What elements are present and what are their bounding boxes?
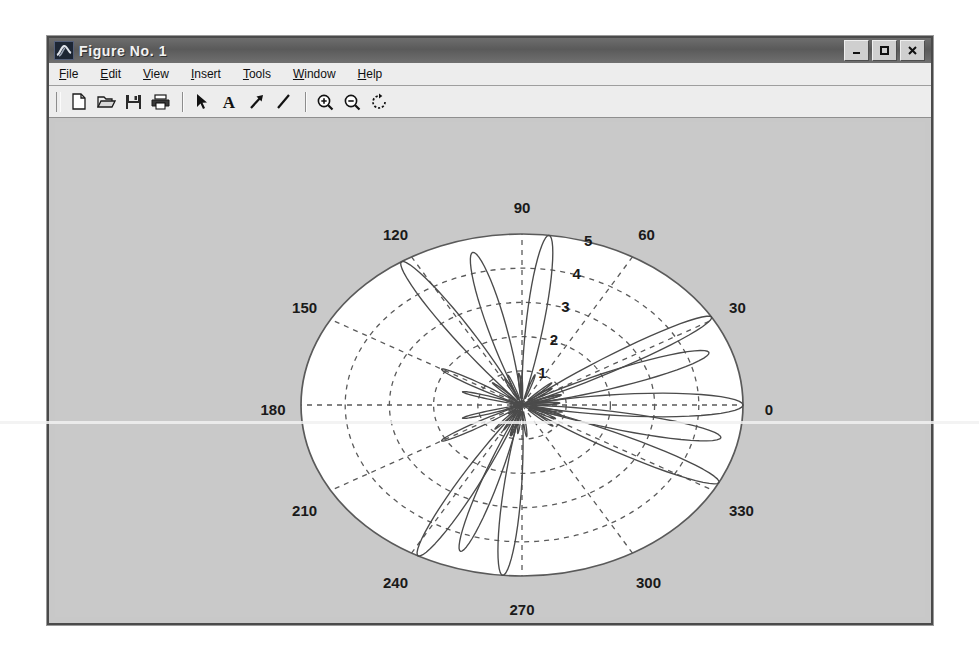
scan-streak-artifact xyxy=(0,421,979,424)
page-margin-bottom xyxy=(0,627,979,660)
angular-tick-label: 300 xyxy=(636,574,661,591)
radial-tick-label: 5 xyxy=(584,232,592,249)
angular-tick-label: 30 xyxy=(729,299,746,316)
angular-tick-label: 120 xyxy=(383,226,408,243)
menu-label: iew xyxy=(151,67,169,81)
angular-tick-label: 0 xyxy=(765,401,773,418)
angular-tick-label: 60 xyxy=(638,226,655,243)
figure-canvas[interactable]: 030609012015018021024027030033012345 xyxy=(55,122,925,617)
save-figure-icon[interactable] xyxy=(121,90,145,113)
menu-label: indow xyxy=(304,67,335,81)
angular-tick-label: 90 xyxy=(514,199,531,216)
title-bar[interactable]: Figure No. 1 xyxy=(49,38,931,63)
polar-plot[interactable]: 030609012015018021024027030033012345 xyxy=(55,122,929,621)
angular-tick-label: 150 xyxy=(292,299,317,316)
menu-mnemonic: H xyxy=(358,67,367,81)
page-margin-left xyxy=(0,0,46,660)
angular-tick-label: 240 xyxy=(383,574,408,591)
open-file-icon[interactable] xyxy=(94,90,118,113)
page-margin-top xyxy=(0,0,979,34)
menu-bar: File Edit View Insert Tools Window Help xyxy=(49,63,931,86)
menu-window[interactable]: Window xyxy=(291,66,338,82)
angular-tick-label: 180 xyxy=(260,401,285,418)
menu-tools[interactable]: Tools xyxy=(241,66,273,82)
radial-tick-label: 3 xyxy=(561,298,569,315)
new-figure-icon[interactable] xyxy=(67,90,91,113)
zoom-in-icon[interactable] xyxy=(313,90,337,113)
menu-file[interactable]: File xyxy=(57,66,80,82)
menu-label: nsert xyxy=(194,67,221,81)
menu-label: ools xyxy=(249,67,271,81)
page-margin-right xyxy=(934,0,979,660)
window-title: Figure No. 1 xyxy=(79,43,167,59)
toolbar-separator-2 xyxy=(305,92,306,112)
zoom-out-icon[interactable] xyxy=(340,90,364,113)
figure-window: Figure No. 1 File Edit View Insert Tools… xyxy=(47,36,933,625)
radial-tick-label: 2 xyxy=(550,331,558,348)
close-button[interactable] xyxy=(900,40,925,61)
menu-insert[interactable]: Insert xyxy=(189,66,223,82)
menu-edit[interactable]: Edit xyxy=(98,66,123,82)
minimize-button[interactable] xyxy=(844,40,869,61)
angular-tick-label: 330 xyxy=(729,502,754,519)
menu-help[interactable]: Help xyxy=(356,66,385,82)
insert-text-icon[interactable]: A xyxy=(217,90,241,113)
angular-tick-label: 270 xyxy=(509,601,534,618)
menu-label: ile xyxy=(66,67,78,81)
menu-label: elp xyxy=(366,67,382,81)
svg-text:A: A xyxy=(223,93,236,110)
radial-tick-label: 4 xyxy=(573,265,582,282)
edit-plot-arrow-icon[interactable] xyxy=(190,90,214,113)
angular-tick-label: 210 xyxy=(292,502,317,519)
toolbar-grip[interactable] xyxy=(56,92,61,112)
tool-bar: A xyxy=(49,86,931,118)
insert-arrow-icon[interactable] xyxy=(244,90,268,113)
matlab-membrane-icon[interactable] xyxy=(54,41,74,60)
rotate-3d-icon[interactable] xyxy=(367,90,391,113)
menu-mnemonic: W xyxy=(293,67,304,81)
menu-label: dit xyxy=(108,67,121,81)
menu-view[interactable]: View xyxy=(141,66,171,82)
insert-line-icon[interactable] xyxy=(271,90,295,113)
toolbar-separator-1 xyxy=(182,92,183,112)
menu-mnemonic: V xyxy=(143,67,151,81)
maximize-button[interactable] xyxy=(872,40,897,61)
window-controls xyxy=(844,40,929,61)
radial-tick-label: 1 xyxy=(538,364,546,381)
print-figure-icon[interactable] xyxy=(148,90,172,113)
